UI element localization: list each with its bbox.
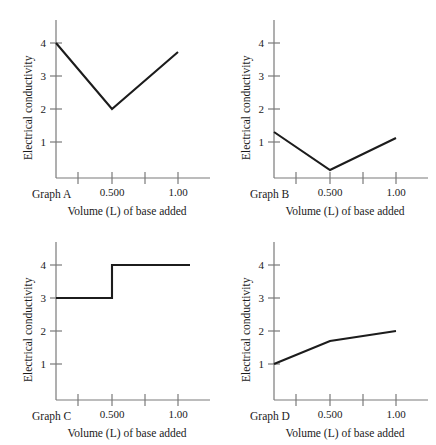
x-axis-title-b: Volume (L) of base added xyxy=(236,205,436,217)
data-series-graph-a xyxy=(56,43,178,109)
panel-label-b: Graph B xyxy=(250,188,289,200)
y-tick-label-2-c: 2 xyxy=(41,325,47,337)
y-tick-label-3-a: 3 xyxy=(41,70,47,82)
y-axis-title-a: Electrical conductivity xyxy=(22,56,34,160)
panel-graph-b: 4 3 2 1 0.500 1.00 Electrical conductivi… xyxy=(218,0,436,222)
y-tick-label-1-b: 1 xyxy=(259,136,265,148)
y-tick-label-1-c: 1 xyxy=(41,358,47,370)
four-panel-conductivity-figure: 4 3 2 1 0.500 1.00 Electrical conductivi… xyxy=(0,0,436,445)
x-axis-title-d: Volume (L) of base added xyxy=(236,427,436,439)
y-tick-label-2-b: 2 xyxy=(259,103,265,115)
y-tick-label-2-d: 2 xyxy=(259,325,265,337)
x-tick-label-050-b: 0.500 xyxy=(318,186,343,198)
x-tick-label-100-a: 1.00 xyxy=(168,186,188,198)
y-tick-label-4-b: 4 xyxy=(259,37,265,49)
panel-label-c: Graph C xyxy=(32,410,71,422)
y-axis-title-b: Electrical conductivity xyxy=(240,56,252,160)
panel-label-a: Graph A xyxy=(32,188,71,200)
x-tick-label-100-c: 1.00 xyxy=(168,408,188,420)
y-tick-label-2-a: 2 xyxy=(41,103,47,115)
y-tick-label-3-b: 3 xyxy=(259,70,265,82)
panel-graph-d: 4 3 2 1 0.500 1.00 Electrical conductivi… xyxy=(218,222,436,444)
panel-graph-c: 4 3 2 1 0.500 1.00 Electrical conductivi… xyxy=(0,222,218,444)
y-tick-label-1-a: 1 xyxy=(41,136,47,148)
data-series-graph-d xyxy=(274,331,396,364)
y-tick-label-4-d: 4 xyxy=(259,259,265,271)
x-axis-title-c: Volume (L) of base added xyxy=(18,427,236,439)
y-tick-label-4-c: 4 xyxy=(41,259,47,271)
y-tick-label-4-a: 4 xyxy=(41,37,47,49)
panel-label-d: Graph D xyxy=(250,410,290,422)
panel-graph-a: 4 3 2 1 0.500 1.00 Electrical conductivi… xyxy=(0,0,218,222)
x-axis-title-a: Volume (L) of base added xyxy=(18,205,236,217)
y-tick-label-3-c: 3 xyxy=(41,292,47,304)
data-series-graph-b xyxy=(274,132,396,170)
data-series-graph-c xyxy=(56,265,190,298)
x-tick-label-100-d: 1.00 xyxy=(386,408,406,420)
y-tick-label-1-d: 1 xyxy=(259,358,265,370)
x-tick-label-100-b: 1.00 xyxy=(386,186,406,198)
x-tick-label-050-c: 0.500 xyxy=(100,408,125,420)
y-axis-title-c: Electrical conductivity xyxy=(22,278,34,382)
x-tick-label-050-d: 0.500 xyxy=(318,408,343,420)
x-tick-label-050-a: 0.500 xyxy=(100,186,125,198)
y-tick-label-3-d: 3 xyxy=(259,292,265,304)
y-axis-title-d: Electrical conductivity xyxy=(240,278,252,382)
